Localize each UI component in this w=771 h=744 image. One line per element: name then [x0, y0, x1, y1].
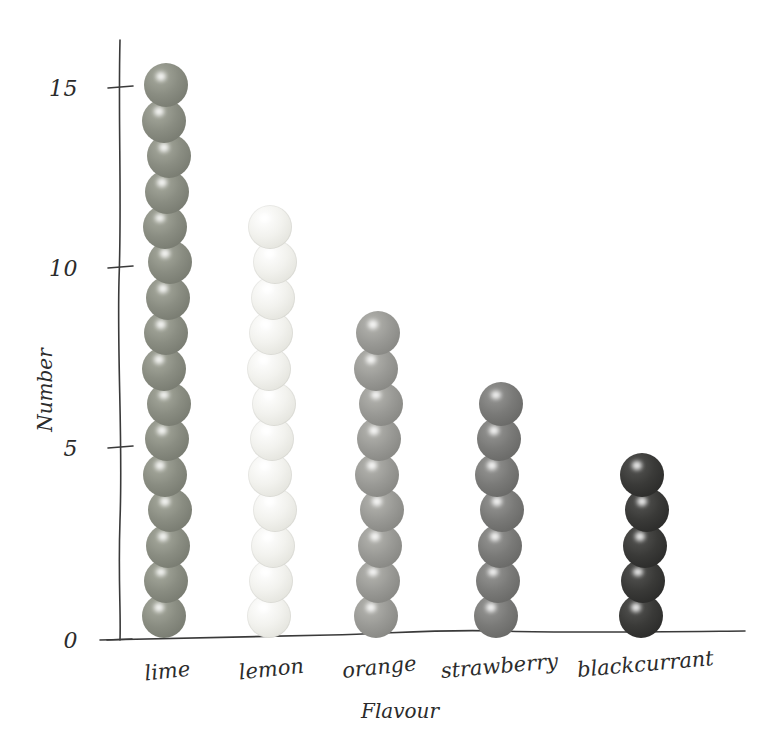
data-point-dot [479, 382, 523, 426]
y-tick-label-5: 5 [64, 436, 79, 461]
x-category-label-blackcurrant: blackcurrant [576, 646, 715, 682]
y-tick-mark-15 [108, 86, 133, 88]
data-point-dot [356, 311, 400, 355]
dot-plot-chart: 15 10 5 0 Number lime lemon orange straw… [0, 0, 771, 744]
y-tick-mark-0 [107, 639, 132, 640]
x-category-label-lime: lime [143, 657, 191, 686]
x-category-label-strawberry: strawberry [440, 649, 560, 683]
x-category-label-orange: orange [341, 651, 418, 683]
x-axis-title: Flavour [360, 699, 440, 723]
data-point-dot [620, 453, 664, 497]
y-tick-mark-10 [108, 266, 133, 268]
y-axis-line [119, 40, 121, 640]
y-tick-label-10: 10 [49, 256, 78, 281]
x-category-label-lemon: lemon [238, 654, 305, 685]
y-axis-title: Number [33, 347, 57, 433]
data-point-dot [144, 63, 188, 107]
y-tick-mark-5 [108, 446, 133, 448]
data-point-dot [248, 205, 292, 249]
y-tick-label-0: 0 [64, 628, 79, 653]
y-tick-label-15: 15 [49, 76, 78, 101]
